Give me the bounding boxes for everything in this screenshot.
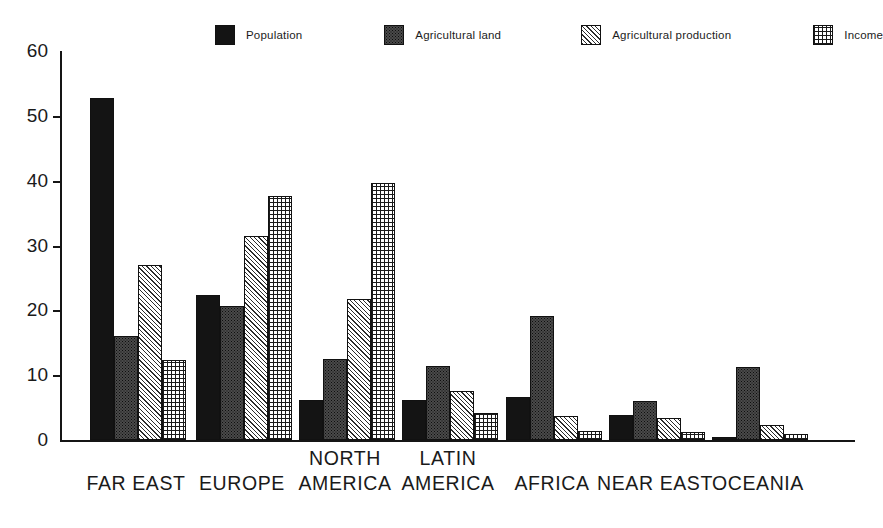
bar-europe-agricultural-production (244, 236, 268, 440)
bar-far-east-agricultural-production (138, 265, 162, 440)
y-tick-label: 40 (27, 170, 48, 192)
bar-north-america-agricultural-land (323, 359, 347, 440)
bar-latin-america-agricultural-production (450, 391, 474, 440)
y-tick-label: 10 (27, 364, 48, 386)
plot-area: 0102030405060 (60, 51, 855, 441)
legend-swatch-agricultural-land-icon (384, 25, 404, 45)
y-tick-label: 30 (27, 235, 48, 257)
bar-oceania-agricultural-production (760, 425, 784, 440)
bar-group-north-america (299, 51, 395, 440)
bar-africa-income (578, 431, 602, 440)
bar-near-east-agricultural-land (633, 401, 657, 440)
bar-oceania-population (712, 437, 736, 440)
bar-far-east-income (162, 360, 186, 440)
bar-near-east-population (609, 415, 633, 440)
bar-latin-america-population (402, 400, 426, 440)
bar-africa-agricultural-production (554, 416, 578, 440)
y-tick-mark (53, 310, 62, 312)
legend-item-agricultural-land: Agricultural land (384, 22, 501, 48)
y-tick-mark (53, 116, 62, 118)
bar-north-america-population (299, 400, 323, 440)
bar-far-east-population (90, 98, 114, 440)
bar-europe-income (268, 196, 292, 440)
legend-swatch-income-icon (813, 25, 833, 45)
legend-item-income: Income (813, 22, 883, 48)
chart-legend: Population Agricultural land Agricultura… (215, 22, 855, 48)
x-axis-labels: FAR EASTEUROPENORTHAMERICALATINAMERICAAF… (60, 446, 855, 516)
bar-group-europe (196, 51, 292, 440)
bar-group-oceania (712, 51, 808, 440)
y-tick-mark (53, 246, 62, 248)
bar-oceania-agricultural-land (736, 367, 760, 440)
y-tick-label: 60 (27, 40, 48, 62)
bar-europe-population (196, 295, 220, 440)
legend-label-population: Population (246, 29, 302, 41)
bar-far-east-agricultural-land (114, 336, 138, 440)
bar-oceania-income (784, 434, 808, 440)
x-label-line: OCEANIA (668, 471, 848, 496)
legend-label-agricultural-land: Agricultural land (415, 29, 501, 41)
bar-north-america-income (371, 183, 395, 440)
bar-near-east-agricultural-production (657, 418, 681, 440)
bar-near-east-income (681, 432, 705, 440)
legend-item-agricultural-production: Agricultural production (581, 22, 731, 48)
bar-group-near-east (609, 51, 705, 440)
x-label-line: LATIN (358, 446, 538, 471)
x-label-oceania: OCEANIA (668, 471, 848, 496)
bar-europe-agricultural-land (220, 306, 244, 440)
legend-label-agricultural-production: Agricultural production (612, 29, 731, 41)
bar-north-america-agricultural-production (347, 299, 371, 440)
y-tick-label: 0 (37, 429, 48, 451)
bar-group-latin-america (402, 51, 498, 440)
bar-group-africa (506, 51, 602, 440)
y-tick-mark (53, 181, 62, 183)
y-tick-label: 20 (27, 299, 48, 321)
bar-group-far-east (90, 51, 186, 440)
legend-label-income: Income (844, 29, 883, 41)
y-tick-label: 50 (27, 105, 48, 127)
legend-swatch-population-icon (215, 25, 235, 45)
y-tick-mark (53, 375, 62, 377)
bar-africa-agricultural-land (530, 316, 554, 440)
legend-swatch-agricultural-production-icon (581, 25, 601, 45)
legend-item-population: Population (215, 22, 302, 48)
bar-groups (62, 51, 855, 440)
bar-africa-population (506, 397, 530, 440)
bar-latin-america-agricultural-land (426, 366, 450, 440)
x-axis-line (60, 440, 855, 442)
bar-latin-america-income (474, 413, 498, 440)
